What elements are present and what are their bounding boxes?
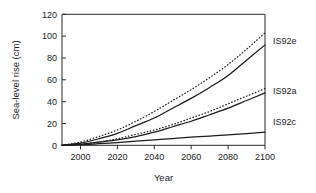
y-axis-title: Sea-level rise (cm) xyxy=(10,40,21,119)
x-tick-label-2000: 2000 xyxy=(70,152,90,162)
y-tick-label-80: 80 xyxy=(47,53,57,63)
x-tick-label-2060: 2060 xyxy=(181,152,201,162)
x-axis-title: Year xyxy=(154,172,173,183)
x-tick-label-2080: 2080 xyxy=(218,152,238,162)
y-tick-label-0: 0 xyxy=(52,141,57,151)
series-label-is92c: IS92c xyxy=(273,117,297,127)
series-label-is92e: IS92e xyxy=(273,36,297,46)
y-tick-label-100: 100 xyxy=(42,31,57,41)
x-tick-label-2020: 2020 xyxy=(107,152,127,162)
y-tick-label-60: 60 xyxy=(47,75,57,85)
sea-level-rise-chart: 120 100 80 60 40 20 0 2000 2020 2040 206… xyxy=(0,0,316,193)
x-tick-label-2100: 2100 xyxy=(255,152,275,162)
y-tick-label-120: 120 xyxy=(42,10,57,20)
x-tick-label-2040: 2040 xyxy=(144,152,164,162)
y-tick-label-40: 40 xyxy=(47,97,57,107)
y-tick-label-20: 20 xyxy=(47,119,57,129)
series-label-is92a: IS92a xyxy=(273,86,297,96)
